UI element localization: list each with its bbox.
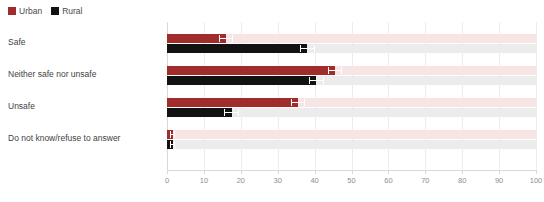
- bar-group: [167, 66, 536, 90]
- gridline: [536, 22, 537, 170]
- axis-tick-mark: [536, 170, 537, 174]
- legend-swatch-icon-urban: [8, 7, 16, 15]
- error-bar-rural: [309, 76, 324, 85]
- axis-tick-label: 70: [421, 176, 429, 185]
- axis-tick-label: 30: [274, 176, 282, 185]
- axis-tick-label: 20: [237, 176, 245, 185]
- value-axis: 0102030405060708090100: [167, 170, 536, 200]
- category-label: Safe: [8, 37, 26, 47]
- bar-rural[interactable]: [167, 44, 307, 53]
- legend-item-rural: Rural: [51, 7, 82, 16]
- axis-tick-mark: [167, 170, 168, 174]
- axis-tick-mark: [462, 170, 463, 174]
- axis-tick-mark: [315, 170, 316, 174]
- axis-tick-mark: [278, 170, 279, 174]
- axis-tick-mark: [241, 170, 242, 174]
- axis-tick-label: 90: [495, 176, 503, 185]
- axis-tick-mark: [499, 170, 500, 174]
- bar-group: [167, 98, 536, 122]
- legend-item-urban: Urban: [8, 7, 42, 16]
- axis-tick-label: 40: [310, 176, 318, 185]
- error-bar-rural: [300, 44, 315, 53]
- axis-tick-label: 0: [165, 176, 169, 185]
- axis-tick-mark: [204, 170, 205, 174]
- axis-tick-mark: [425, 170, 426, 174]
- error-bar-urban: [328, 66, 343, 75]
- category-label: Do not know/refuse to answer: [8, 133, 120, 143]
- axis-tick-label: 60: [384, 176, 392, 185]
- legend-label-rural: Rural: [62, 7, 82, 16]
- category-axis-labels: SafeNeither safe nor unsafeUnsafeDo not …: [0, 22, 160, 170]
- chart-legend: Urban Rural: [8, 4, 82, 18]
- axis-tick-label: 10: [200, 176, 208, 185]
- plot-area: [167, 22, 536, 170]
- axis-tick-label: 100: [530, 176, 543, 185]
- bar-track-rural: [167, 140, 536, 149]
- bar-urban[interactable]: [167, 98, 298, 107]
- error-bar-rural: [170, 140, 176, 149]
- bar-group: [167, 34, 536, 58]
- category-label: Neither safe nor unsafe: [8, 69, 96, 79]
- axis-tick-label: 50: [347, 176, 355, 185]
- error-bar-urban: [170, 130, 176, 139]
- axis-tick-label: 80: [458, 176, 466, 185]
- legend-swatch-icon-rural: [51, 7, 59, 15]
- bar-group: [167, 130, 536, 154]
- bar-rural[interactable]: [167, 108, 232, 117]
- bar-urban[interactable]: [167, 66, 335, 75]
- legend-label-urban: Urban: [19, 7, 42, 16]
- bar-urban[interactable]: [167, 34, 226, 43]
- bar-rural[interactable]: [167, 76, 316, 85]
- category-label: Unsafe: [8, 101, 35, 111]
- bar-chart: SafeNeither safe nor unsafeUnsafeDo not …: [0, 22, 544, 202]
- axis-tick-mark: [388, 170, 389, 174]
- bar-track-urban: [167, 130, 536, 139]
- error-bar-urban: [219, 34, 234, 43]
- error-bar-urban: [291, 98, 306, 107]
- axis-tick-mark: [352, 170, 353, 174]
- error-bar-rural: [224, 108, 239, 117]
